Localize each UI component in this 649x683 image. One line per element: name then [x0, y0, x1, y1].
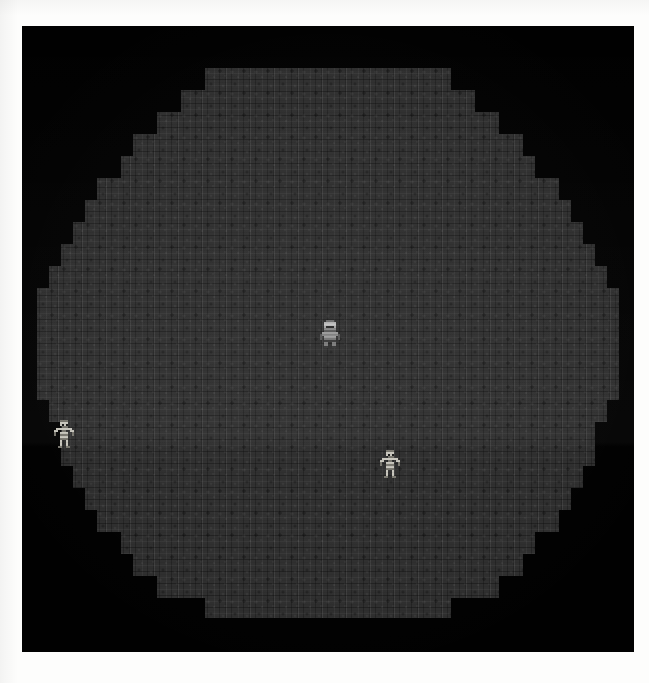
- floor-row: [121, 532, 535, 554]
- floor-row: [73, 466, 583, 488]
- floor-row: [121, 156, 535, 178]
- floor-row: [61, 244, 595, 266]
- floor-row: [157, 112, 499, 134]
- floor-row: [97, 510, 559, 532]
- floor-row: [97, 178, 559, 200]
- floor-row: [133, 554, 523, 576]
- floor-row: [49, 400, 607, 422]
- floor-row: [61, 422, 595, 444]
- floor-row: [85, 200, 571, 222]
- skeleton-enemy-sprite[interactable]: [54, 420, 74, 448]
- floor-row: [205, 598, 451, 618]
- floor-row: [61, 444, 595, 466]
- floor-row: [157, 576, 499, 598]
- floor-row: [49, 266, 607, 288]
- skeleton-enemy-sprite[interactable]: [380, 450, 400, 478]
- game-viewport[interactable]: [22, 26, 634, 652]
- floor-row: [181, 90, 475, 112]
- floor-row: [205, 68, 451, 90]
- floor-row: [133, 134, 523, 156]
- floor-row: [73, 222, 583, 244]
- screenshot-root: [0, 0, 649, 683]
- floor-row: [85, 488, 571, 510]
- player-knight-sprite[interactable]: [320, 318, 340, 348]
